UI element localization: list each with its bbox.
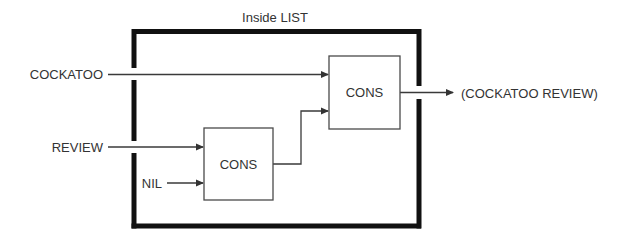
inner-cons-box: CONS: [204, 128, 273, 200]
input-label-cockatoo: COCKATOO: [30, 67, 103, 82]
input-label-nil: NIL: [142, 176, 162, 191]
inner-cons-output-wire: [273, 111, 328, 164]
list-function-diagram: Inside LIST COCKATOO REVIEW NIL CONS CON…: [0, 0, 629, 237]
inner-cons-label: CONS: [220, 157, 258, 172]
output-label: (COCKATOO REVIEW): [461, 86, 598, 101]
outer-cons-box: CONS: [329, 56, 400, 129]
outer-cons-label: CONS: [346, 85, 384, 100]
diagram-title: Inside LIST: [242, 10, 308, 25]
input-label-review: REVIEW: [52, 140, 104, 155]
